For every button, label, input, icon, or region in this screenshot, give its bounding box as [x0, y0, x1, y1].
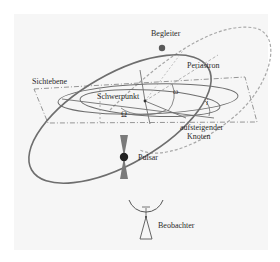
pulsar-label: Pulsar: [138, 154, 158, 162]
diagram-canvas: Begleiter Sichtebene Periastron Schwerpu…: [0, 0, 280, 262]
sky-plane-label: Sichtebene: [32, 78, 67, 86]
radius-line-2: [145, 101, 150, 124]
companion-label: Begleiter: [151, 30, 180, 38]
observer-mount: [140, 217, 152, 239]
barycenter-label: Schwerpunkt: [97, 93, 139, 101]
barycenter-dot: [144, 100, 147, 103]
radius-line-1: [140, 70, 145, 101]
orbit-diagram-svg: [0, 0, 280, 262]
Omega-label: Ω: [121, 111, 127, 119]
observer-label: Beobachter: [158, 222, 194, 230]
periastron-label: Periastron: [187, 62, 219, 70]
companion-dot: [159, 45, 165, 51]
omega-label: ω: [173, 88, 178, 96]
inclination-label: i: [206, 99, 208, 107]
ascending-node-label-2: Knoten: [187, 133, 211, 141]
pulsar-orbit: [9, 29, 231, 209]
radius-line-3: [145, 101, 186, 118]
ascending-node-label-1: aufsteigender: [180, 124, 223, 132]
pulsar-dot: [120, 153, 128, 161]
